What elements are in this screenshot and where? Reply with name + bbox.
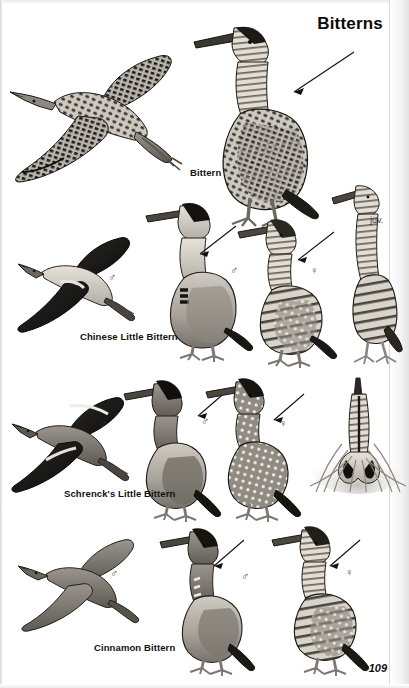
figure-chinese-little-bittern-standing-female	[236, 216, 344, 364]
species-label-chinese-little-bittern: Chinese Little Bittern	[80, 331, 178, 342]
page-number: 109	[369, 662, 387, 674]
figure-bittern-standing	[184, 18, 334, 228]
sex-mark-schrencks-female: ♀	[279, 418, 287, 429]
sex-mark-schrencks-flight-male: ♂	[99, 419, 107, 430]
species-label-cinnamon-bittern: Cinnamon Bittern	[94, 642, 175, 653]
species-label-schrencks-little-bittern: Schrenck's Little Bittern	[64, 488, 175, 499]
species-label-bittern: Bittern	[190, 167, 221, 178]
sex-mark-clb-flight-male: ♂	[108, 272, 116, 283]
sex-mark-cinnamon-male: ♂	[241, 571, 249, 582]
field-guide-plate-page: Bitterns	[0, 0, 409, 688]
figure-bittern-flight	[8, 46, 190, 186]
figure-schrencks-flight-male	[12, 396, 140, 498]
figure-cinnamon-standing-female	[270, 522, 382, 672]
sex-mark-cinnamon-flight-male: ♂	[110, 568, 118, 579]
figure-schrencks-reed-posture	[310, 374, 406, 494]
figure-chinese-little-bittern-flight-male	[16, 236, 144, 338]
figure-cinnamon-flight-male	[16, 534, 148, 632]
age-mark-juvenile: juv.	[370, 215, 383, 225]
sex-mark-clb-female: ♀	[310, 265, 318, 276]
page-edge-bottom	[0, 684, 409, 688]
page-edge-top	[0, 0, 409, 4]
figure-schrencks-standing-female	[204, 374, 314, 520]
page-edge-left	[0, 0, 3, 688]
figure-chinese-little-bittern-juvenile	[330, 180, 406, 366]
sex-mark-cinnamon-female: ♀	[345, 567, 353, 578]
